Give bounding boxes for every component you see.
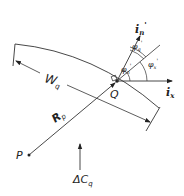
left-tick [13, 44, 15, 66]
point-p [28, 154, 31, 157]
label-p: P [16, 149, 23, 162]
label-phi-q: φq' [132, 39, 143, 53]
label-w: Wq [43, 71, 63, 91]
label-in: in' [135, 19, 147, 37]
label-phi-x: φx' [148, 57, 158, 70]
label-r: Rp [49, 107, 68, 126]
label-delta-c: ΔCq [72, 173, 93, 188]
w-dimension-left [16, 61, 40, 73]
right-tick [146, 107, 160, 131]
phi-x-arc [140, 62, 147, 81]
diagram-canvas: in' ix φq' φx' φn' Wq Rp Q P ΔCq [0, 0, 184, 196]
label-q: Q [110, 88, 119, 101]
r-vector [29, 83, 115, 155]
geometry-diagram: in' ix φq' φx' φn' Wq Rp Q P ΔCq [0, 0, 184, 196]
label-ix: ix [166, 86, 175, 100]
label-phi-n: φn' [121, 62, 132, 75]
